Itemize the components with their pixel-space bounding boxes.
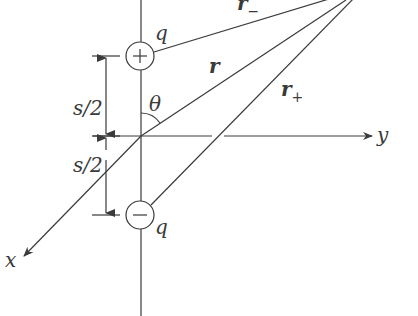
s-half-bottom-label: s/2 <box>73 153 103 177</box>
r-plus-sub: + <box>292 89 304 105</box>
s-half-top-label: s/2 <box>73 96 103 120</box>
theta-label: θ <box>149 92 161 116</box>
x-axis-label: x <box>5 248 16 272</box>
charge-top-label: q <box>155 21 168 45</box>
r-minus-label: r− <box>237 0 259 19</box>
r-plus-line <box>151 0 356 205</box>
r-vector-line <box>141 0 346 136</box>
r-plus-label: r+ <box>281 77 303 105</box>
r-label: r <box>209 54 221 78</box>
charge-bottom-label: q <box>155 215 168 239</box>
r-minus-sub: − <box>248 3 260 19</box>
y-axis-label: y <box>376 123 389 147</box>
dipole-diagram: q q r r− r+ θ s/2 s/2 x y <box>0 0 418 316</box>
